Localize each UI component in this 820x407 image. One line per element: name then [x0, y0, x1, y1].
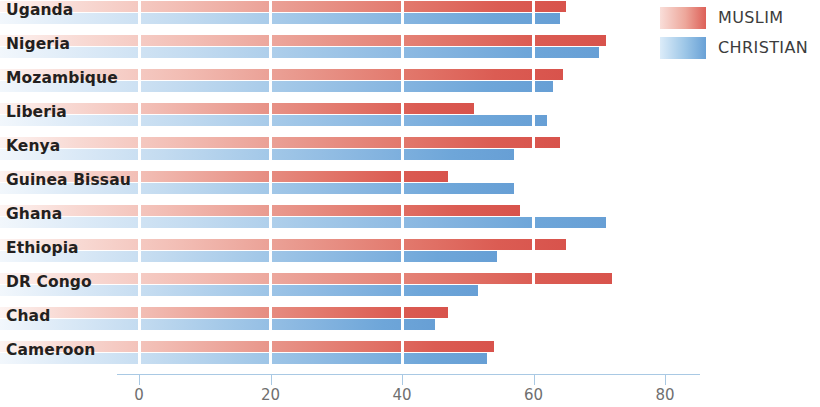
bar-muslim[interactable]: [0, 273, 612, 284]
legend-swatch: [660, 7, 706, 29]
country-label: DR Congo: [6, 275, 92, 291]
x-axis-tick: [271, 374, 272, 385]
x-axis-tick-label: 60: [514, 388, 554, 403]
legend-label: CHRISTIAN: [718, 38, 808, 58]
bar-muslim[interactable]: [0, 35, 606, 46]
bar-row: [0, 205, 700, 239]
gridline: [401, 0, 404, 372]
country-label: Nigeria: [6, 37, 70, 53]
country-label: Uganda: [6, 3, 73, 19]
bar-muslim[interactable]: [0, 1, 566, 12]
bar-muslim[interactable]: [0, 137, 560, 148]
bar-row: [0, 239, 700, 273]
gridline: [138, 0, 141, 372]
bar-muslim[interactable]: [0, 239, 566, 250]
x-axis: 020406080: [0, 374, 700, 407]
legend-label: MUSLIM: [718, 8, 784, 28]
x-axis-tick-label: 40: [382, 388, 422, 403]
x-axis-line: [117, 374, 700, 375]
country-label: Kenya: [6, 139, 60, 155]
country-label: Ghana: [6, 207, 62, 223]
bar-christian[interactable]: [0, 115, 547, 126]
bar-muslim[interactable]: [0, 307, 448, 318]
grouped-bar-chart: UgandaNigeriaMozambiqueLiberiaKenyaGuine…: [0, 0, 820, 407]
country-label: Liberia: [6, 105, 67, 121]
bar-row: [0, 137, 700, 171]
x-axis-tick: [665, 374, 666, 385]
bar-row: [0, 103, 700, 137]
bar-christian[interactable]: [0, 47, 599, 58]
bar-muslim[interactable]: [0, 205, 520, 216]
plot-area: UgandaNigeriaMozambiqueLiberiaKenyaGuine…: [0, 0, 700, 372]
chart-legend: MUSLIMCHRISTIAN: [660, 4, 818, 64]
bar-row: [0, 1, 700, 35]
bar-christian[interactable]: [0, 13, 560, 24]
country-label: Guinea Bissau: [6, 173, 131, 189]
bar-row: [0, 307, 700, 341]
country-label: Chad: [6, 309, 50, 325]
bar-christian[interactable]: [0, 217, 606, 228]
bar-christian[interactable]: [0, 319, 435, 330]
country-label: Mozambique: [6, 71, 118, 87]
legend-item[interactable]: CHRISTIAN: [660, 34, 818, 64]
legend-swatch: [660, 37, 706, 59]
country-label: Cameroon: [6, 343, 95, 359]
gridline: [532, 0, 535, 372]
bar-row: [0, 341, 700, 375]
bar-row: [0, 273, 700, 307]
x-axis-tick: [534, 374, 535, 385]
x-axis-tick-label: 80: [645, 388, 685, 403]
x-axis-tick-label: 20: [251, 388, 291, 403]
bar-christian[interactable]: [0, 149, 514, 160]
bar-row: [0, 35, 700, 69]
x-axis-tick: [139, 374, 140, 385]
legend-item[interactable]: MUSLIM: [660, 4, 818, 34]
x-axis-tick: [402, 374, 403, 385]
country-label: Ethiopia: [6, 241, 79, 257]
x-axis-tick-label: 0: [119, 388, 159, 403]
gridline: [269, 0, 272, 372]
